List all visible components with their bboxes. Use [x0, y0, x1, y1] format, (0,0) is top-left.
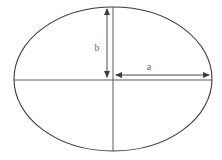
ellipse-diagram: b a	[0, 0, 222, 160]
semi-minor-axis-label: b	[95, 42, 100, 53]
semi-major-axis-label: a	[147, 61, 152, 72]
ellipse-figure-svg: b a	[0, 0, 222, 160]
